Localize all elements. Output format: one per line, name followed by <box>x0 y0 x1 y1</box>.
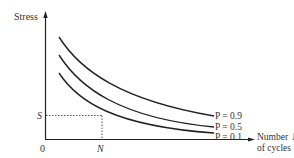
origin-label: 0 <box>40 143 45 154</box>
sn-diagram: Stress S 0 N P = 0.9 P = 0.5 P = 0.1 Num… <box>0 0 294 158</box>
x-axis-label-line1: NumberN <box>257 132 294 142</box>
curve-p09 <box>59 37 214 116</box>
y-axis-label: Stress <box>14 11 38 22</box>
curve-p05 <box>59 55 214 127</box>
n-mark-label: N <box>96 143 105 154</box>
x-axis-arrow-icon <box>248 137 255 141</box>
legend-p05: P = 0.5 <box>215 122 242 132</box>
legend-p09: P = 0.9 <box>215 111 242 121</box>
x-axis-label-line2: of cycles <box>257 143 291 153</box>
diagram-svg: Stress S 0 N P = 0.9 P = 0.5 P = 0.1 Num… <box>0 0 294 158</box>
y-axis-arrow-icon <box>43 11 47 18</box>
s-mark-label: S <box>37 110 42 121</box>
legend-p01: P = 0.1 <box>215 132 242 142</box>
